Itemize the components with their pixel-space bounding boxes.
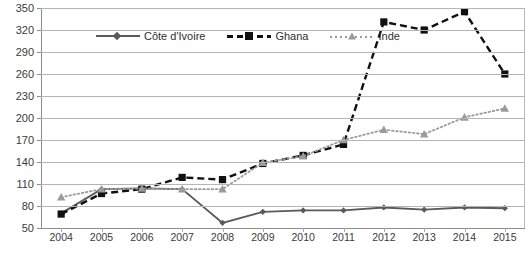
x-axis-tick-label: 2006 [120,231,164,243]
chart-legend: Côte d'IvoireGhanaInde [96,30,400,42]
y-axis-tick-label: 230 [0,90,34,102]
x-axis-tick-mark [263,228,264,232]
legend-label: Côte d'Ivoire [144,30,205,42]
data-point-marker [219,176,226,183]
y-axis-tick-label: 200 [0,112,34,124]
triangle-marker-icon [348,33,356,40]
data-point-marker [421,207,427,213]
x-axis-tick-mark [344,228,345,232]
square-marker-icon [245,32,253,40]
x-axis-tick-mark [61,228,62,232]
x-axis-tick-label: 2004 [39,231,83,243]
x-axis-tick-mark [102,228,103,232]
data-point-marker [300,207,306,213]
legend-item-ghana[interactable]: Ghana [227,30,308,42]
legend-item-c-te-d-ivoire[interactable]: Côte d'Ivoire [96,30,205,42]
x-axis-tick-mark [384,228,385,232]
data-point-marker [260,209,266,215]
x-axis-tick-mark [223,228,224,232]
gridline [41,52,525,53]
legend-label: Inde [378,30,399,42]
x-axis-tick-mark [465,228,466,232]
y-axis-tick-label: 80 [0,200,34,212]
x-axis-tick-label: 2007 [160,231,204,243]
legend-label: Ghana [275,30,308,42]
y-axis-tick-label: 140 [0,156,34,168]
gridline [41,8,525,9]
x-axis-tick-label: 2005 [80,231,124,243]
x-axis-tick-label: 2008 [201,231,245,243]
x-axis-tick-label: 2015 [483,231,527,243]
gridline [41,206,525,207]
gridline [41,96,525,97]
data-point-marker [461,8,468,15]
gridline [41,118,525,119]
data-point-marker [340,207,346,213]
y-axis-tick-label: 170 [0,134,34,146]
gridline [41,184,525,185]
legend-swatch [96,30,140,42]
y-axis-tick-label: 260 [0,68,34,80]
line-chart: 5080110140170200230260290320350 20042005… [0,0,528,253]
data-point-marker [501,104,509,112]
gridline [41,162,525,163]
x-axis-tick-label: 2011 [322,231,366,243]
data-point-marker [57,193,65,201]
gridline [41,74,525,75]
x-axis-tick-mark [303,228,304,232]
data-point-marker [58,210,65,217]
gridline [41,228,525,229]
gridline [41,140,525,141]
x-axis-tick-label: 2012 [362,231,406,243]
data-point-marker [179,174,186,181]
data-point-marker [380,18,387,25]
y-axis-tick-label: 350 [0,2,34,14]
x-axis-tick-label: 2014 [443,231,487,243]
legend-swatch [330,30,374,42]
y-axis-tick-label: 290 [0,46,34,58]
y-axis-tick-label: 110 [0,178,34,190]
legend-swatch [227,30,271,42]
data-point-marker [380,126,388,134]
x-axis-tick-mark [505,228,506,232]
y-axis-tick-label: 320 [0,24,34,36]
x-axis-tick-label: 2013 [402,231,446,243]
legend-item-inde[interactable]: Inde [330,30,399,42]
diamond-marker-icon [113,32,121,40]
x-axis-tick-mark [142,228,143,232]
x-axis-tick-mark [424,228,425,232]
x-axis-tick-label: 2010 [281,231,325,243]
x-axis-tick-mark [182,228,183,232]
x-axis-tick-label: 2009 [241,231,285,243]
y-axis-tick-label: 50 [0,222,34,234]
